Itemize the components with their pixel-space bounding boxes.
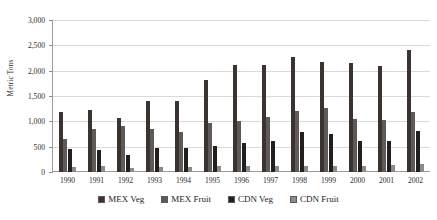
legend-item[interactable]: CDN Fruit	[290, 194, 339, 204]
bar	[353, 119, 357, 172]
legend-item[interactable]: MEX Fruit	[161, 194, 211, 204]
bar	[88, 110, 92, 172]
bar	[362, 166, 366, 172]
bar	[237, 121, 241, 172]
x-axis-tick-label: 1999	[321, 176, 336, 185]
bar	[391, 165, 395, 172]
legend-label: CDN Veg	[238, 194, 273, 204]
y-axis-tick-label: 1,500	[28, 92, 45, 101]
bar	[304, 166, 308, 172]
y-axis-tick-label: 3,000	[28, 16, 45, 25]
bar-group	[227, 20, 256, 172]
bar	[92, 129, 96, 172]
x-axis-tick-label: 1996	[234, 176, 249, 185]
bar	[275, 166, 279, 172]
x-axis-tick-label: 1991	[89, 176, 104, 185]
bar	[246, 166, 250, 172]
chart-legend: MEX VegMEX FruitCDN VegCDN Fruit	[0, 194, 437, 204]
bar	[416, 131, 420, 172]
bar	[217, 166, 221, 172]
bar-group	[198, 20, 227, 172]
bar	[378, 66, 382, 172]
bar	[130, 168, 134, 172]
bar	[291, 57, 295, 172]
bar-group	[140, 20, 169, 172]
bar	[349, 63, 353, 172]
bar	[271, 141, 275, 172]
legend-swatch-icon	[98, 196, 105, 203]
y-axis-tick-label: 0	[41, 168, 45, 177]
bar	[242, 143, 246, 172]
bar	[233, 65, 237, 172]
bar	[407, 50, 411, 172]
bar-group	[372, 20, 401, 172]
y-axis-tick-label: 1,000	[28, 117, 45, 126]
bar-group	[285, 20, 314, 172]
legend-item[interactable]: CDN Veg	[228, 194, 273, 204]
bar-group	[314, 20, 343, 172]
bar-group	[169, 20, 198, 172]
bar	[329, 134, 333, 172]
bar	[266, 117, 270, 172]
y-axis-tick-labels: 05001,0001,5002,0002,5003,000	[0, 20, 48, 172]
bar	[420, 164, 424, 172]
bar	[213, 146, 217, 172]
bar	[382, 120, 386, 172]
bar-group	[343, 20, 372, 172]
bar	[101, 166, 105, 172]
bar	[175, 101, 179, 172]
legend-label: CDN Fruit	[300, 194, 339, 204]
bar	[150, 129, 154, 172]
bar	[179, 132, 183, 172]
bar	[72, 167, 76, 172]
bar	[300, 132, 304, 172]
bar	[184, 148, 188, 172]
legend-label: MEX Veg	[108, 194, 144, 204]
x-axis-tick-label: 2000	[350, 176, 365, 185]
bar	[63, 139, 67, 172]
bar	[208, 123, 212, 172]
bar	[117, 118, 121, 172]
bar-group	[256, 20, 285, 172]
x-axis-tick-label: 1997	[263, 176, 278, 185]
y-axis-tick-label: 2,000	[28, 66, 45, 75]
y-axis-tick	[49, 172, 53, 173]
bar	[324, 108, 328, 172]
legend-label: MEX Fruit	[171, 194, 211, 204]
x-axis-tick-label: 1993	[147, 176, 162, 185]
bar-group	[53, 20, 82, 172]
y-axis-tick-label: 2,500	[28, 41, 45, 50]
bar	[59, 112, 63, 172]
x-axis-tick-label: 2001	[379, 176, 394, 185]
bar	[68, 149, 72, 172]
bar	[320, 62, 324, 172]
legend-swatch-icon	[290, 196, 297, 203]
x-axis-tick-labels: 1990199119921993199419951996199719981999…	[53, 176, 430, 188]
bar	[387, 141, 391, 172]
bar-group	[82, 20, 111, 172]
legend-item[interactable]: MEX Veg	[98, 194, 144, 204]
legend-swatch-icon	[161, 196, 168, 203]
bar	[121, 126, 125, 172]
bar	[126, 155, 130, 172]
x-axis-tick-label: 1994	[176, 176, 191, 185]
bar	[262, 65, 266, 172]
bar-group	[401, 20, 430, 172]
x-axis-tick-label: 1998	[292, 176, 307, 185]
x-axis-tick-label: 1995	[205, 176, 220, 185]
x-axis-tick-label: 1992	[118, 176, 133, 185]
y-axis-tick-label: 500	[34, 142, 45, 151]
x-axis-tick-label: 2002	[408, 176, 423, 185]
bar	[97, 150, 101, 172]
bar	[358, 141, 362, 172]
bar	[188, 167, 192, 172]
bar-groups	[53, 20, 430, 172]
bar	[146, 101, 150, 172]
bar	[204, 80, 208, 172]
bar	[295, 111, 299, 172]
bar-group	[111, 20, 140, 172]
legend-swatch-icon	[228, 196, 235, 203]
bar	[411, 112, 415, 172]
bar	[333, 166, 337, 172]
bar	[155, 148, 159, 172]
